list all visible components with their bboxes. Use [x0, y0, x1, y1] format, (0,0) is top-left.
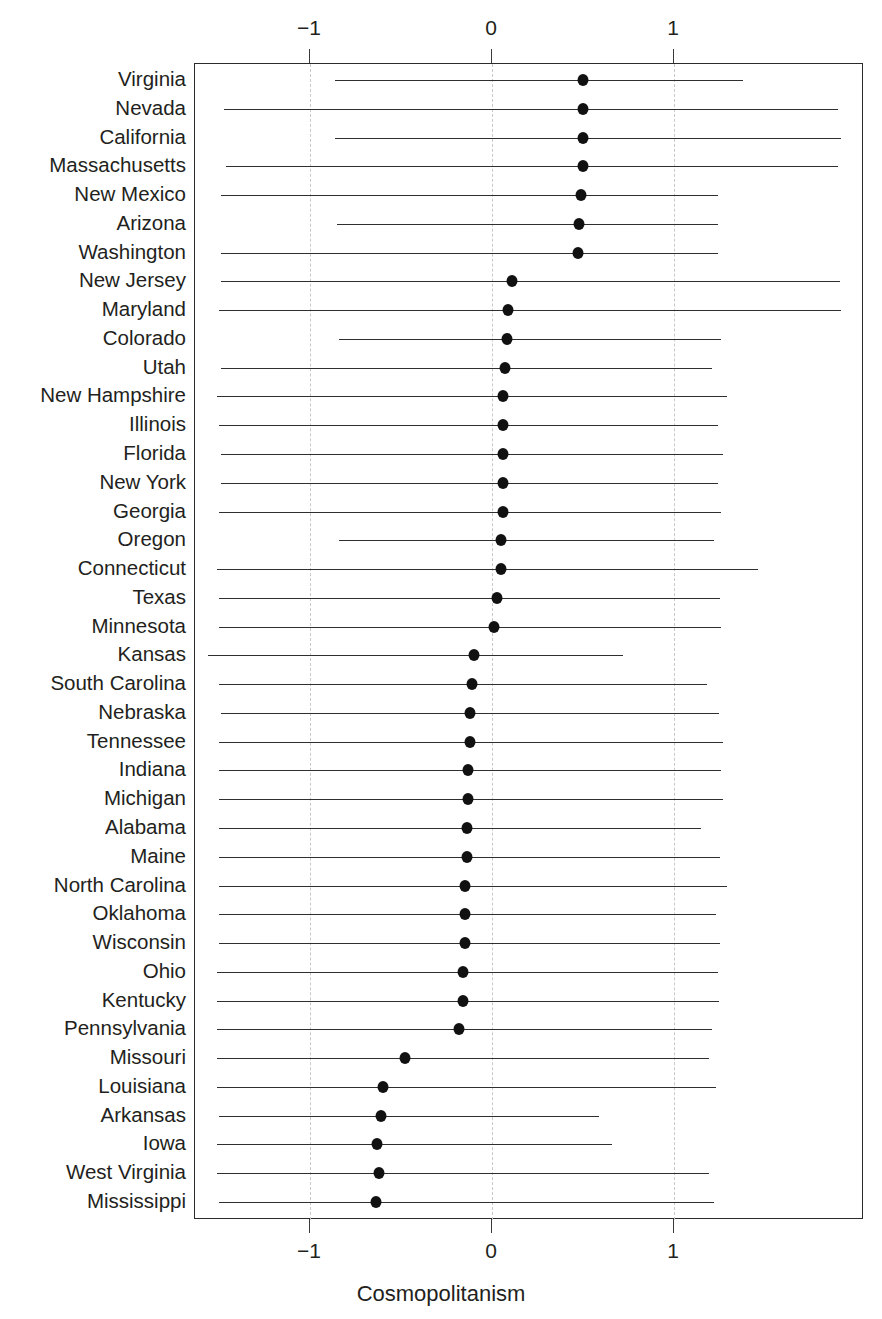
- bottom-tick-mark: [491, 1219, 492, 1233]
- bottom-tick-mark: [309, 1219, 310, 1233]
- x-axis-title: Cosmopolitanism: [0, 1281, 882, 1307]
- bottom-tick-mark: [673, 1219, 674, 1233]
- bottom-tick-label: 0: [485, 1239, 497, 1263]
- bottom-x-axis: −101: [0, 0, 882, 1319]
- bottom-tick-label: 1: [667, 1239, 679, 1263]
- bottom-tick-label: −1: [297, 1239, 321, 1263]
- cosmopolitanism-caterpillar-chart: −101 VirginiaNevadaCaliforniaMassachuset…: [0, 0, 882, 1319]
